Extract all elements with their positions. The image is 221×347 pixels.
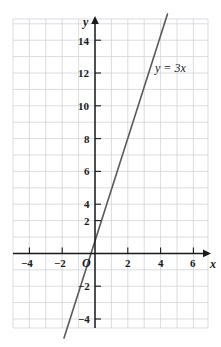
y-tick-label-8: 8 xyxy=(84,134,90,145)
y-tick-label-neg2: −2 xyxy=(78,281,90,292)
y-tick-label-neg4: −4 xyxy=(78,314,90,325)
x-tick-label-neg4: −4 xyxy=(21,258,33,269)
equation-annotation: y = 3x xyxy=(155,62,186,74)
x-axis-label: x xyxy=(210,258,216,270)
x-tick-label-2: 2 xyxy=(125,258,131,269)
y-tick-label-2: 2 xyxy=(84,216,90,227)
y-axis-label: y xyxy=(83,16,88,28)
x-tick-label-6: 6 xyxy=(190,258,196,269)
y-axis xyxy=(91,16,101,328)
y-tick-label-4: 4 xyxy=(84,199,90,210)
origin-label: O xyxy=(82,257,91,269)
y-tick-label-14: 14 xyxy=(78,36,89,47)
x-axis xyxy=(13,248,211,258)
coordinate-plane xyxy=(0,0,221,347)
y-tick-label-12: 12 xyxy=(78,68,89,79)
y-tick-label-6: 6 xyxy=(84,166,90,177)
y-tick-label-10: 10 xyxy=(78,101,89,112)
x-tick-label-4: 4 xyxy=(158,258,164,269)
x-tick-label-neg2: −2 xyxy=(54,258,66,269)
graph-figure: −4 −2 2 4 6 14 12 10 8 6 4 2 −2 −4 O y x… xyxy=(0,0,221,347)
